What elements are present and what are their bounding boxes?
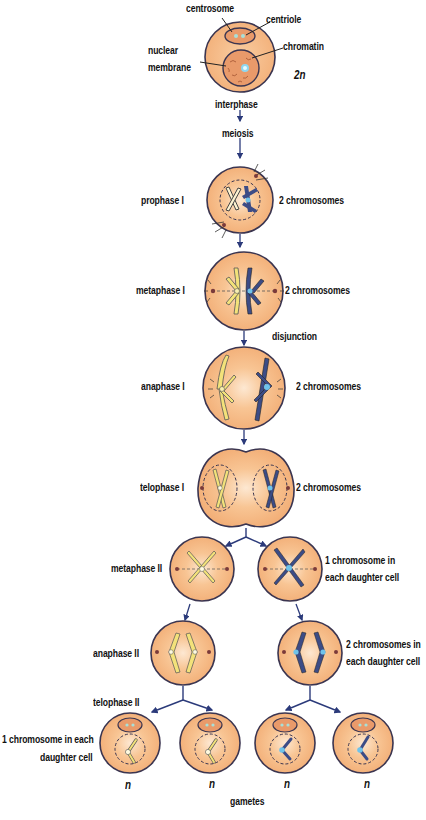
anaphase-i-cell xyxy=(203,347,285,429)
note-telophase-i: 2 chromosomes xyxy=(296,481,361,493)
metaphase-ii-left-cell xyxy=(170,537,234,601)
note-telophase-ii-2: daughter cell xyxy=(40,751,93,763)
centrosome xyxy=(225,28,255,44)
gamete-cell-4 xyxy=(333,713,393,773)
ploidy-gamete-4: n xyxy=(364,777,370,791)
note-prophase-i: 2 chromosomes xyxy=(279,194,344,206)
note-metaphase-ii-2: each daughter cell xyxy=(325,571,399,583)
label-nuclear-membrane-2: membrane xyxy=(148,61,191,73)
telophase-i-cell xyxy=(198,449,294,527)
prophase-i-cell xyxy=(207,164,273,238)
interphase-cell xyxy=(200,18,283,92)
stage-prophase-i: prophase I xyxy=(141,194,184,206)
gamete-cell-1 xyxy=(100,713,160,773)
label-meiosis: meiosis xyxy=(222,127,253,139)
label-centrosome: centrosome xyxy=(186,2,234,14)
note-metaphase-ii-1: 1 chromosome in xyxy=(325,554,395,566)
note-anaphase-ii-1: 2 chromosomes in xyxy=(346,638,421,650)
gamete-cell-2 xyxy=(180,713,240,773)
stage-telophase-ii: telophase II xyxy=(93,696,139,708)
label-centriole: centriole xyxy=(266,13,301,25)
stage-telophase-i: telophase I xyxy=(140,481,184,493)
label-chromatin: chromatin xyxy=(283,40,324,52)
note-metaphase-i: 2 chromosomes xyxy=(285,284,350,296)
meiosis-diagram xyxy=(0,0,426,820)
note-telophase-ii-1: 1 chromosome in each xyxy=(2,733,94,745)
anaphase-ii-left-cell xyxy=(151,621,215,685)
metaphase-i-cell xyxy=(204,252,284,330)
ploidy-gamete-2: n xyxy=(209,777,215,791)
stage-metaphase-ii: metaphase II xyxy=(111,562,162,574)
ploidy-gamete-1: n xyxy=(125,778,131,792)
label-interphase: interphase xyxy=(215,98,258,110)
note-anaphase-ii-2: each daughter cell xyxy=(346,655,420,667)
anaphase-ii-right-cell xyxy=(278,621,342,685)
label-disjunction: disjunction xyxy=(272,330,317,342)
metaphase-ii-right-cell xyxy=(258,537,322,601)
label-nuclear-membrane-1: nuclear xyxy=(148,44,178,56)
stage-anaphase-ii: anaphase II xyxy=(93,647,139,659)
label-gametes: gametes xyxy=(230,795,264,807)
label-ploidy-2n: 2n xyxy=(294,68,305,82)
ploidy-gamete-3: n xyxy=(284,777,290,791)
stage-anaphase-i: anaphase I xyxy=(141,380,185,392)
note-anaphase-i: 2 chromosomes xyxy=(296,380,361,392)
gamete-cell-3 xyxy=(255,713,315,773)
stage-metaphase-i: metaphase I xyxy=(136,284,185,296)
